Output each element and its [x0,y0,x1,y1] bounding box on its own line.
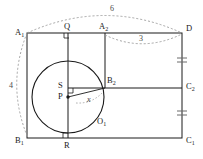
dimension-label-6: 6 [110,5,114,13]
vertex-label-C1: C1 [186,136,195,145]
vertex-label-P: P [58,92,63,101]
vertex-label-A2: A2 [99,22,108,31]
vertex-label-Q: Q [64,22,70,31]
dimension-arc-right-3 [105,34,182,44]
dimension-label-3: 3 [139,35,143,43]
vertex-label-R: R [64,141,70,150]
vertex-label-C2: C2 [186,82,195,91]
right-angle-mark-at-R [63,133,68,138]
vertex-label-S: S [58,81,63,90]
dimension-arc-left-4 [17,33,28,138]
vertex-label-B1: B1 [15,136,24,145]
right-angle-mark-at-S [68,88,73,93]
vertex-label-D: D [186,24,192,33]
circle-label-O1: O1 [97,117,106,126]
vertex-label-A1: A1 [15,28,24,37]
geometry-figure: A1 Q A2 D B2 C2 S P O1 B1 R C1 6 3 4 x [0,0,203,159]
center-point-P [66,95,69,98]
dimension-label-x: x [87,96,91,104]
dimension-label-4: 4 [9,82,13,90]
vertex-label-B2: B2 [107,76,116,85]
